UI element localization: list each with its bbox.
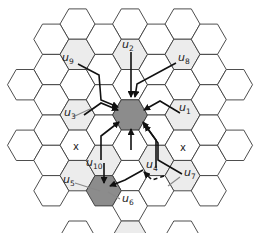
hex-cell bbox=[60, 221, 95, 233]
x-mark: x bbox=[180, 142, 186, 153]
x-mark: x bbox=[73, 141, 79, 152]
hex-cell bbox=[113, 221, 148, 233]
hex-grid-diagram: u1u2u3u4u5u6u7u8u9u10xx bbox=[0, 0, 259, 233]
diagram-canvas: u1u2u3u4u5u6u7u8u9u10xx bbox=[0, 0, 259, 233]
hex-cell bbox=[165, 221, 200, 233]
